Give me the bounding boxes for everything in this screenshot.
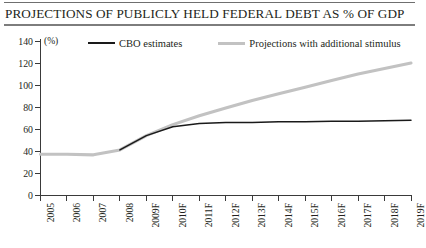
x-tick-label: 2008 [124, 203, 135, 222]
title-underline-rule [4, 24, 415, 26]
x-tick-mark [172, 196, 173, 201]
x-tick-label: 2015F [309, 203, 320, 228]
y-tick-mark [35, 63, 40, 64]
legend-label-cbo: CBO estimates [119, 38, 182, 49]
legend-label-stimulus: Projections with additional stimulus [249, 38, 400, 49]
y-tick-mark [35, 173, 40, 174]
legend-line-swatch-stimulus [218, 42, 245, 45]
x-tick-mark [358, 196, 359, 201]
x-tick-mark [66, 196, 67, 201]
chart-legend: CBO estimates Projections with additiona… [88, 36, 401, 50]
series-line-cbo [120, 120, 411, 150]
x-tick-label: 2017F [362, 203, 373, 228]
x-tick-mark [384, 196, 385, 201]
x-tick-label: 2013F [256, 203, 267, 228]
y-tick-label: 20 [3, 168, 33, 179]
x-tick-label: 2012F [230, 203, 241, 228]
x-tick-mark [252, 196, 253, 201]
y-tick-mark [35, 151, 40, 152]
legend-item-cbo: CBO estimates [88, 38, 182, 49]
x-tick-mark [278, 196, 279, 201]
y-tick-label: 100 [3, 80, 33, 91]
x-tick-mark [411, 196, 412, 201]
y-tick-mark [35, 41, 40, 42]
y-tick-label: 80 [3, 102, 33, 113]
y-tick-mark [35, 129, 40, 130]
x-tick-label: 2007 [97, 203, 108, 222]
legend-item-stimulus: Projections with additional stimulus [218, 38, 400, 49]
top-rule [4, 2, 415, 3]
x-tick-label: 2006 [71, 203, 82, 222]
x-tick-mark [119, 196, 120, 201]
y-tick-mark [35, 107, 40, 108]
y-tick-label: 40 [3, 146, 33, 157]
legend-line-swatch-cbo [88, 42, 115, 44]
x-tick-label: 2019F [415, 203, 426, 228]
x-tick-label: 2009F [150, 203, 161, 228]
x-tick-label: 2018F [389, 203, 400, 228]
x-tick-label: 2011F [203, 203, 214, 227]
x-tick-mark [199, 196, 200, 201]
x-tick-mark [331, 196, 332, 201]
y-tick-label: 120 [3, 58, 33, 69]
series-line-stimulus [41, 63, 412, 155]
x-tick-mark [305, 196, 306, 201]
y-tick-label: 60 [3, 124, 33, 135]
x-tick-label: 2010F [177, 203, 188, 228]
x-tick-label: 2016F [336, 203, 347, 228]
x-tick-mark [225, 196, 226, 201]
x-tick-mark [40, 196, 41, 201]
x-tick-label: 2014F [283, 203, 294, 228]
y-axis-line [40, 39, 41, 197]
y-axis-unit-label: (%) [44, 36, 58, 46]
y-tick-mark [35, 85, 40, 86]
x-tick-label: 2005 [45, 203, 56, 222]
y-tick-label: 0 [3, 190, 33, 201]
x-tick-mark [93, 196, 94, 201]
y-tick-label: 140 [3, 36, 33, 47]
x-tick-mark [146, 196, 147, 201]
page-title: PROJECTIONS OF PUBLICLY HELD FEDERAL DEB… [5, 5, 410, 22]
